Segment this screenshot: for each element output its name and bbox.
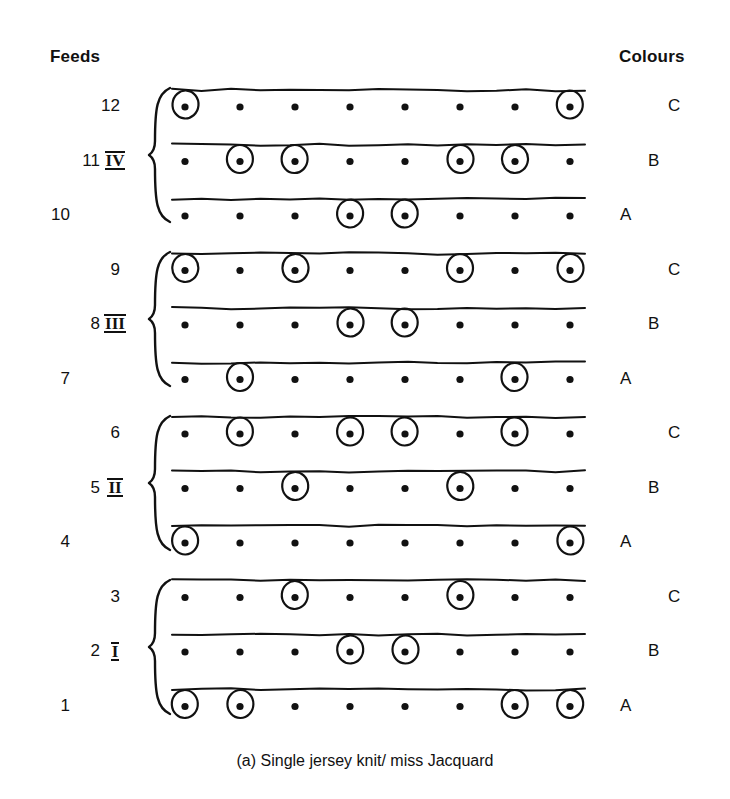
colour-label-feed-2: B [648, 641, 666, 661]
needle-dot [181, 103, 188, 110]
course-line [172, 307, 585, 309]
colour-label-feed-9: C [668, 260, 686, 280]
needle-dot [181, 321, 188, 328]
needle-dot [236, 485, 243, 492]
group-numeral-iii: III [95, 314, 135, 334]
course-line [172, 416, 585, 418]
needle-dot [511, 648, 518, 655]
needle-dot [181, 485, 188, 492]
feed-label-11: 11 [66, 151, 100, 171]
needle-dot [346, 321, 353, 328]
needle-dot [401, 158, 408, 165]
needle-dot [181, 212, 188, 219]
needle-dot [236, 267, 243, 274]
needle-dot [236, 648, 243, 655]
needle-dot [291, 267, 298, 274]
needle-dot [456, 267, 463, 274]
feed-label-5: 5 [66, 478, 100, 498]
course-line [172, 252, 585, 255]
needle-dot [181, 158, 188, 165]
needle-dot [511, 703, 518, 710]
needle-dot [566, 539, 573, 546]
needle-dot [346, 539, 353, 546]
needle-dot [291, 648, 298, 655]
feed-label-3: 3 [86, 587, 120, 607]
needle-dot [511, 376, 518, 383]
feed-label-1: 1 [36, 696, 70, 716]
needle-dot [511, 430, 518, 437]
colour-label-feed-6: C [668, 423, 686, 443]
needle-dot [566, 267, 573, 274]
feed-label-8: 8 [66, 314, 100, 334]
course-line [172, 470, 585, 472]
course-line [172, 89, 585, 92]
needle-dot [456, 158, 463, 165]
needle-dot [456, 376, 463, 383]
needle-dot [566, 648, 573, 655]
needle-dot [291, 539, 298, 546]
diagram-canvas: Feeds Colours IVIIIIII12C11B10A9C8B7A6C5… [0, 0, 730, 799]
needle-dot [181, 703, 188, 710]
needle-dot [346, 648, 353, 655]
group-numeral-i: I [95, 642, 135, 662]
needle-dot [346, 594, 353, 601]
needle-dot [456, 103, 463, 110]
needle-dot [291, 158, 298, 165]
needle-dot [566, 430, 573, 437]
needle-dot [291, 103, 298, 110]
needle-dot [346, 703, 353, 710]
needle-dot [401, 648, 408, 655]
needle-dot [346, 158, 353, 165]
needle-dot [291, 430, 298, 437]
colour-label-feed-8: B [648, 314, 666, 334]
needle-dot [401, 430, 408, 437]
knitting-notation-drawing [0, 0, 730, 799]
needle-dot [236, 594, 243, 601]
needle-dot [236, 321, 243, 328]
group-brace [149, 580, 170, 714]
needle-dot [236, 103, 243, 110]
needle-dot [456, 648, 463, 655]
feed-label-7: 7 [36, 369, 70, 389]
group-numeral-text: I [111, 642, 120, 661]
needle-dot [566, 212, 573, 219]
needle-dot [181, 648, 188, 655]
course-line [172, 525, 585, 527]
needle-dot [511, 594, 518, 601]
colour-label-feed-10: A [620, 205, 638, 225]
needle-dot [456, 485, 463, 492]
needle-dot [291, 321, 298, 328]
needle-dot [291, 594, 298, 601]
needle-dot [236, 539, 243, 546]
figure-caption: (a) Single jersey knit/ miss Jacquard [0, 752, 730, 770]
course-line [172, 688, 585, 690]
needle-dot [456, 539, 463, 546]
needle-dot [456, 594, 463, 601]
needle-dot [511, 103, 518, 110]
needle-dot [511, 158, 518, 165]
colour-label-feed-11: B [648, 151, 666, 171]
needle-dot [566, 321, 573, 328]
group-numeral-text: II [107, 478, 122, 497]
needle-dot [511, 485, 518, 492]
needle-dot [566, 594, 573, 601]
colour-label-feed-5: B [648, 478, 666, 498]
needle-dot [236, 158, 243, 165]
colour-label-feed-1: A [620, 696, 638, 716]
group-numeral-text: IV [105, 151, 126, 170]
needle-dot [236, 212, 243, 219]
needle-dot [291, 703, 298, 710]
needle-dot [401, 485, 408, 492]
needle-dot [346, 267, 353, 274]
group-brace [149, 88, 170, 222]
needle-dot [181, 376, 188, 383]
group-numeral-iv: IV [95, 151, 135, 171]
needle-dot [181, 539, 188, 546]
needle-dot [511, 321, 518, 328]
needle-dot [236, 703, 243, 710]
needle-dot [401, 321, 408, 328]
feed-label-2: 2 [66, 641, 100, 661]
feed-label-12: 12 [86, 96, 120, 116]
needle-dot [456, 321, 463, 328]
needle-dot [456, 212, 463, 219]
